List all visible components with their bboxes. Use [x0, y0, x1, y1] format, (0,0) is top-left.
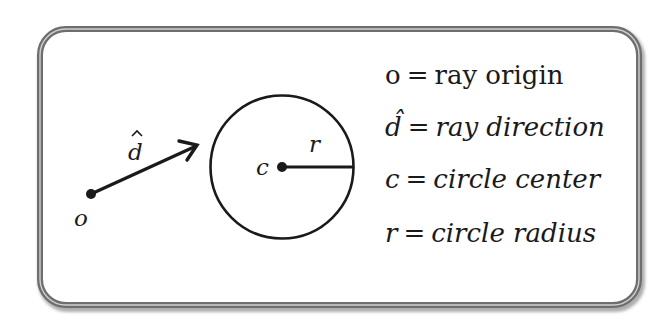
origin-label: o: [74, 205, 88, 231]
legend-symbol: c: [385, 164, 400, 194]
legend-description: ray origin: [434, 60, 563, 90]
legend-symbol: d̂: [385, 112, 402, 142]
legend-description: circle center: [433, 164, 600, 194]
legend-description: circle radius: [431, 218, 596, 248]
legend-description: ray direction: [435, 112, 604, 142]
legend-item-origin: o=ray origin: [385, 62, 563, 88]
legend-equals: =: [407, 60, 429, 90]
legend-symbol: o: [385, 60, 401, 90]
circle-center-point: [277, 162, 287, 172]
legend-equals: =: [403, 218, 425, 248]
legend-symbol: r: [385, 218, 397, 248]
legend-item-radius: r=circle radius: [385, 220, 596, 246]
direction-label: d: [128, 139, 143, 165]
center-label: c: [256, 154, 269, 180]
ray-origin-point: [86, 189, 96, 199]
legend-equals: =: [408, 112, 430, 142]
legend-equals: =: [406, 164, 428, 194]
legend-item-center: c=circle center: [385, 166, 600, 192]
legend-item-direction: d̂=ray direction: [385, 114, 605, 140]
